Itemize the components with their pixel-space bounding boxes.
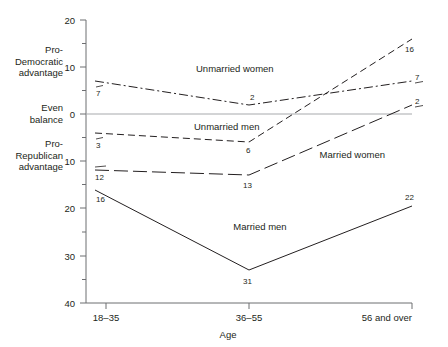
axis-caption-even-balance: Even balance <box>30 102 63 125</box>
series-label-unmarried-women: Unmarried women <box>196 63 274 74</box>
point-label: 7 <box>415 73 420 82</box>
line-chart: 20 10 0 10 20 30 40 Pro- Democratic adva… <box>0 0 448 347</box>
axis-caption-line: Pro- <box>45 44 63 55</box>
series-label-married-men: Married men <box>233 221 286 232</box>
point-label-tick <box>95 166 106 167</box>
series-label-unmarried-men: Unmarried men <box>194 121 259 132</box>
y-tick-label: 10 <box>64 62 75 73</box>
axis-caption-line: Pro- <box>45 138 63 149</box>
point-label: 6 <box>246 146 251 155</box>
point-label-tick <box>96 86 103 88</box>
y-tick-label: 40 <box>64 298 75 309</box>
y-tick-label: 20 <box>64 203 75 214</box>
axis-caption-pro-democratic: Pro- Democratic advantage <box>15 44 63 78</box>
point-label: 16 <box>96 195 105 204</box>
chart-container: 20 10 0 10 20 30 40 Pro- Democratic adva… <box>0 0 448 347</box>
series-married-men: 16 31 22 Married men <box>95 190 414 286</box>
point-label: 3 <box>96 141 101 150</box>
series-line <box>95 105 412 175</box>
axis-caption-line: balance <box>30 114 63 125</box>
y-tick-label: 20 <box>64 15 75 26</box>
y-axis-tick-labels: 20 10 0 10 20 30 40 <box>64 15 75 309</box>
y-tick-label: 30 <box>64 251 75 262</box>
point-label: 22 <box>405 193 414 202</box>
axis-caption-line: Even <box>41 102 63 113</box>
axis-caption-line: advantage <box>19 67 63 78</box>
point-label: 2 <box>415 97 420 106</box>
point-label-tick <box>96 138 103 140</box>
axis-caption-line: advantage <box>19 161 63 172</box>
series-unmarried-men: 3 6 16 Unmarried men <box>95 39 414 155</box>
point-label: 7 <box>96 89 101 98</box>
x-axis-ticks <box>106 303 412 309</box>
series-label-married-women: Married women <box>320 149 385 160</box>
x-tick-label: 56 and over <box>362 312 412 323</box>
y-tick-label: 10 <box>64 156 75 167</box>
axis-caption-line: Republican <box>15 150 63 161</box>
point-label: 16 <box>405 45 414 54</box>
x-axis-title: Age <box>220 329 237 340</box>
series-unmarried-women: 7 2 7 Unmarried women <box>95 63 423 105</box>
axis-caption-pro-republican: Pro- Republican advantage <box>15 138 63 172</box>
series-married-women: 12 13 2 Married women <box>95 97 423 190</box>
point-label: 31 <box>243 277 252 286</box>
point-label: 13 <box>243 181 252 190</box>
x-tick-label: 18–35 <box>93 312 119 323</box>
axis-caption-line: Democratic <box>15 56 63 67</box>
point-label: 2 <box>250 93 255 102</box>
x-axis-tick-labels: 18–35 36–55 56 and over <box>93 312 412 323</box>
y-axis-major-ticks <box>80 20 86 303</box>
x-tick-label: 36–55 <box>236 312 262 323</box>
y-tick-label: 0 <box>70 109 75 120</box>
point-label: 12 <box>95 173 104 182</box>
